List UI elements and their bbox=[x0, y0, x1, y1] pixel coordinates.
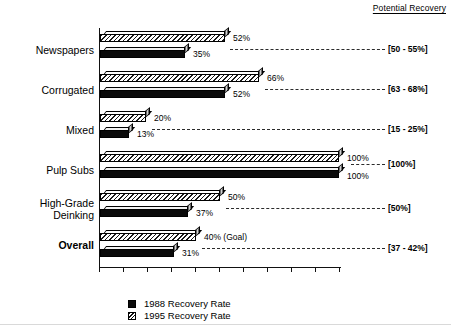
bar-pulp-subs-1988 bbox=[100, 167, 343, 178]
legend-label-1988: 1988 Recovery Rate bbox=[144, 298, 231, 310]
bar-pulp-subs-1995 bbox=[100, 151, 343, 162]
x-axis-tick bbox=[243, 267, 244, 272]
category-label-newspapers: Newspapers bbox=[36, 45, 94, 57]
bar-end-cap bbox=[338, 147, 343, 158]
solid-black-square-icon bbox=[128, 300, 136, 308]
bar-front-face bbox=[100, 74, 259, 82]
bar-front-face bbox=[100, 209, 188, 217]
value-label-corrugated-1995: 66% bbox=[267, 73, 284, 83]
x-axis-tick bbox=[315, 267, 316, 272]
bar-front-face bbox=[100, 233, 196, 241]
x-axis-tick bbox=[267, 267, 268, 272]
x-axis-tick bbox=[339, 267, 340, 272]
category-label-corrugated: Corrugated bbox=[41, 85, 94, 97]
category-label-mixed: Mixed bbox=[66, 125, 94, 137]
bar-front-face bbox=[100, 50, 185, 58]
leader-line-mixed bbox=[152, 129, 385, 130]
bar-newspapers-1988 bbox=[100, 47, 189, 58]
chart-figure: Potential Recovery Newspapers Corrugated… bbox=[0, 0, 451, 325]
bar-high-grade-deinking-1995 bbox=[100, 190, 224, 201]
leader-line-corrugated bbox=[265, 89, 385, 90]
value-label-newspapers-1995: 52% bbox=[233, 33, 250, 43]
x-axis-tick bbox=[99, 267, 100, 272]
bar-mixed-1988 bbox=[100, 127, 133, 138]
x-axis-tick bbox=[147, 267, 148, 272]
bar-front-face bbox=[100, 34, 225, 42]
value-label-overall-1995: 40% (Goal) bbox=[204, 232, 247, 242]
leader-line-pulp-subs bbox=[351, 164, 385, 165]
bar-end-cap bbox=[145, 107, 150, 118]
bar-end-cap bbox=[173, 242, 178, 253]
value-label-high-grade-deinking-1995: 50% bbox=[228, 192, 245, 202]
legend-label-1995: 1995 Recovery Rate bbox=[144, 310, 231, 322]
x-axis-tick bbox=[219, 267, 220, 272]
bar-corrugated-1995 bbox=[100, 71, 263, 82]
value-label-mixed-1988: 13% bbox=[137, 129, 154, 139]
bar-corrugated-1988 bbox=[100, 87, 229, 98]
bar-front-face bbox=[100, 154, 339, 162]
potential-recovery-overall: [37 - 42%] bbox=[388, 243, 428, 253]
bar-front-face bbox=[100, 249, 174, 257]
legend-item-1988: 1988 Recovery Rate bbox=[128, 298, 231, 310]
bar-front-face bbox=[100, 90, 225, 98]
bar-end-cap bbox=[224, 27, 229, 38]
value-label-pulp-subs-1995: 100% bbox=[347, 153, 369, 163]
leader-line-overall bbox=[202, 248, 385, 249]
hatched-square-icon bbox=[128, 312, 136, 320]
bar-end-cap bbox=[195, 226, 200, 237]
potential-recovery-header: Potential Recovery bbox=[373, 3, 446, 13]
bar-overall-1995 bbox=[100, 230, 200, 241]
bar-front-face bbox=[100, 193, 220, 201]
bar-end-cap bbox=[258, 67, 263, 78]
potential-recovery-newspapers: [50 - 55%] bbox=[388, 44, 428, 54]
category-label-high-grade-deinking: High-Grade Deinking bbox=[40, 198, 94, 221]
x-axis-tick bbox=[195, 267, 196, 272]
bar-high-grade-deinking-1988 bbox=[100, 206, 192, 217]
bar-end-cap bbox=[187, 202, 192, 213]
potential-recovery-pulp-subs: [100%] bbox=[388, 159, 415, 169]
value-label-high-grade-deinking-1988: 37% bbox=[196, 208, 213, 218]
leader-line-newspapers bbox=[230, 49, 385, 50]
potential-recovery-mixed: [15 - 25%] bbox=[388, 124, 428, 134]
potential-recovery-corrugated: [63 - 68%] bbox=[388, 84, 428, 94]
x-axis-tick bbox=[123, 267, 124, 272]
legend-item-1995: 1995 Recovery Rate bbox=[128, 310, 231, 322]
x-axis-line bbox=[99, 267, 341, 268]
category-label-overall: Overall bbox=[58, 240, 94, 252]
value-label-pulp-subs-1988: 100% bbox=[347, 171, 369, 181]
value-label-corrugated-1988: 52% bbox=[233, 89, 250, 99]
bar-end-cap bbox=[338, 163, 343, 174]
leader-line-high-grade-deinking bbox=[226, 208, 385, 209]
value-label-newspapers-1988: 35% bbox=[193, 49, 210, 59]
bar-end-cap bbox=[184, 43, 189, 54]
potential-recovery-high-grade-deinking: [50%] bbox=[388, 203, 411, 213]
bar-front-face bbox=[100, 130, 129, 138]
bar-end-cap bbox=[224, 83, 229, 94]
bar-mixed-1995 bbox=[100, 111, 150, 122]
value-label-mixed-1995: 20% bbox=[154, 113, 171, 123]
bar-front-face bbox=[100, 114, 146, 122]
bar-end-cap bbox=[128, 123, 133, 134]
bar-front-face bbox=[100, 170, 339, 178]
bar-overall-1988 bbox=[100, 246, 178, 257]
bar-end-cap bbox=[219, 186, 224, 197]
x-axis-tick bbox=[171, 267, 172, 272]
chart-legend: 1988 Recovery Rate 1995 Recovery Rate bbox=[128, 298, 231, 322]
category-label-pulp-subs: Pulp Subs bbox=[46, 165, 94, 177]
x-axis-tick bbox=[291, 267, 292, 272]
value-label-overall-1988: 31% bbox=[182, 248, 199, 258]
bar-newspapers-1995 bbox=[100, 31, 229, 42]
